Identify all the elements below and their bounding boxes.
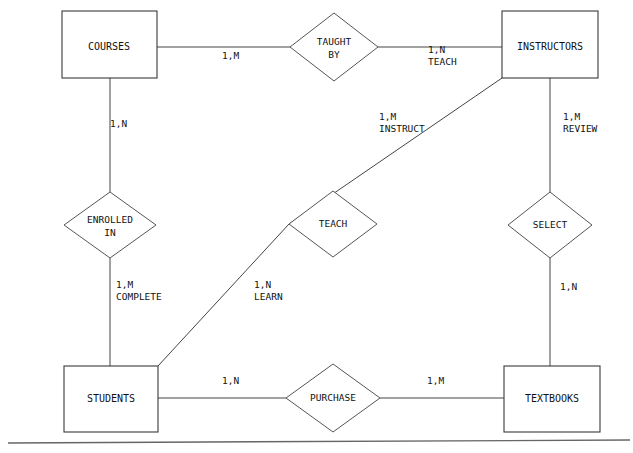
diagram-shapes-layer	[0, 0, 633, 453]
relationship-diamond-taught-by[interactable]	[290, 13, 378, 81]
entity-box-textbooks[interactable]	[504, 366, 600, 432]
relationship-diamond-purchase[interactable]	[286, 364, 380, 432]
relationship-diamond-teach[interactable]	[289, 191, 377, 257]
bottom-rule	[8, 440, 630, 443]
relationship-diamond-enrolled-in[interactable]	[64, 192, 156, 258]
entity-box-courses[interactable]	[62, 11, 157, 78]
relationship-diamond-select[interactable]	[508, 192, 592, 258]
entity-box-instructors[interactable]	[502, 11, 598, 78]
connector-teach-to-students	[158, 224, 289, 366]
entity-box-students[interactable]	[64, 366, 158, 432]
er-diagram-canvas: COURSES INSTRUCTORS STUDENTS TEXTBOOKS T…	[0, 0, 633, 453]
